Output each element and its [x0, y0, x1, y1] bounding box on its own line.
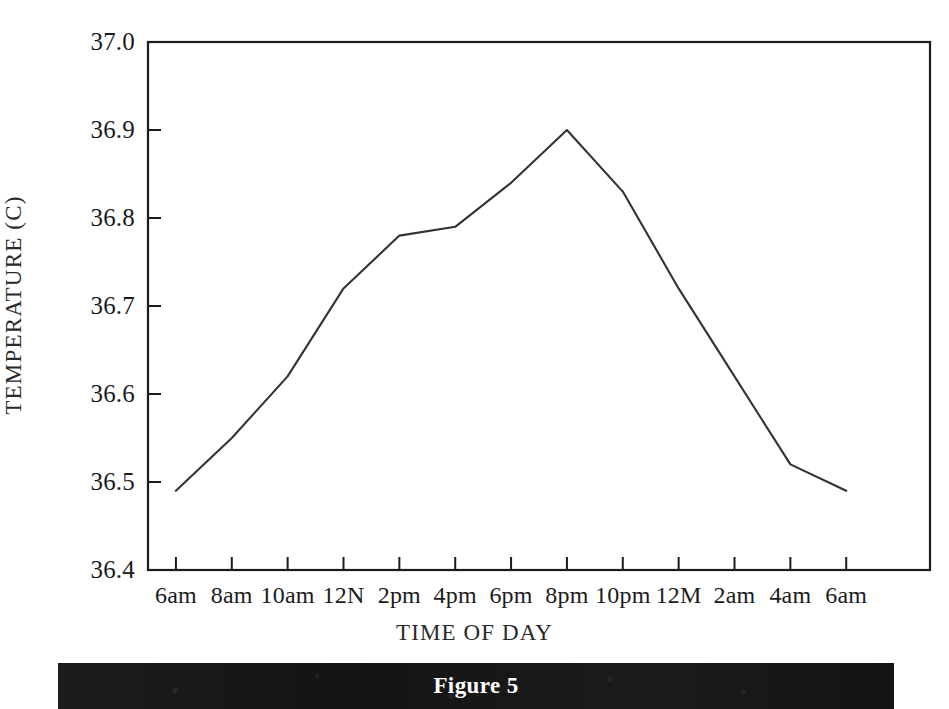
x-axis-ticks — [176, 557, 846, 570]
x-tick-label: 12N — [323, 582, 365, 609]
plot-frame — [148, 42, 930, 570]
y-tick-label: 36.8 — [35, 204, 135, 232]
x-axis-title: TIME OF DAY — [0, 620, 949, 646]
x-tick-label: 4pm — [434, 582, 477, 609]
y-axis-ticks — [148, 130, 161, 482]
y-tick-label: 36.6 — [35, 380, 135, 408]
figure-caption-text: Figure 5 — [58, 663, 894, 709]
x-tick-label: 6pm — [489, 582, 532, 609]
chart-svg — [0, 0, 949, 660]
x-tick-label: 10pm — [595, 582, 650, 609]
x-tick-label: 2pm — [378, 582, 421, 609]
x-tick-label: 10am — [261, 582, 315, 609]
y-axis-title: TEMPERATURE (C) — [1, 195, 27, 414]
x-tick-label: 12M — [656, 582, 702, 609]
chart-plot-area: 36.436.536.636.736.836.937.0 6am8am10am1… — [0, 0, 949, 660]
y-tick-label: 36.7 — [35, 292, 135, 320]
figure-container: 36.436.536.636.736.836.937.0 6am8am10am1… — [0, 0, 949, 709]
x-tick-label: 2am — [714, 582, 756, 609]
y-tick-label: 36.5 — [35, 468, 135, 496]
y-tick-label: 36.9 — [35, 116, 135, 144]
y-tick-label: 36.4 — [35, 556, 135, 584]
x-tick-label: 6am — [825, 582, 867, 609]
y-tick-label: 37.0 — [35, 28, 135, 56]
x-tick-label: 8am — [211, 582, 253, 609]
x-tick-label: 8pm — [545, 582, 588, 609]
x-tick-label: 4am — [769, 582, 811, 609]
figure-caption-bar: Figure 5 — [58, 663, 894, 709]
x-tick-label: 6am — [155, 582, 197, 609]
temperature-series-line — [176, 130, 846, 491]
